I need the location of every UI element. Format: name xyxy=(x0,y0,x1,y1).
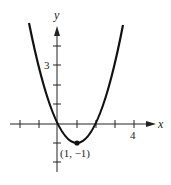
parabola-curve xyxy=(29,23,123,143)
y-axis-arrow-icon xyxy=(54,26,60,36)
x-axis-arrow-icon xyxy=(146,121,156,127)
vertex-point xyxy=(74,140,79,145)
x-tick-label-4: 4 xyxy=(130,129,136,141)
y-tick-label-3: 3 xyxy=(44,59,50,71)
parabola-chart: y x 3 4 (1, −1) xyxy=(0,0,171,185)
vertex-label: (1, −1) xyxy=(60,147,90,160)
x-axis-label: x xyxy=(157,117,164,131)
y-axis-label: y xyxy=(53,8,60,22)
